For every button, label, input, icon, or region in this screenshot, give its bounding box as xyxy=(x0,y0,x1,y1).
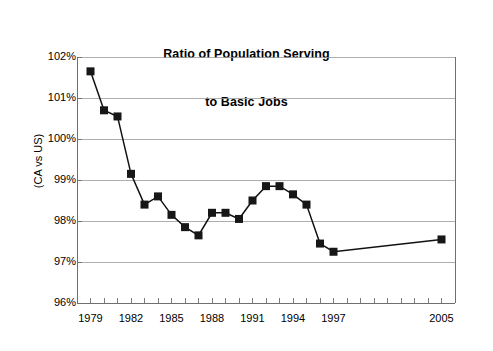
plot-area xyxy=(0,0,493,351)
data-point xyxy=(100,106,108,114)
data-point xyxy=(208,209,216,217)
data-point xyxy=(127,170,135,178)
chart-container: Ratio of Population Serving to Basic Job… xyxy=(0,0,493,351)
series-markers xyxy=(87,67,446,255)
data-point xyxy=(249,197,257,205)
series-line xyxy=(91,71,442,251)
data-point xyxy=(235,215,243,223)
data-point xyxy=(316,240,324,248)
data-point xyxy=(141,201,149,209)
data-point xyxy=(222,209,230,217)
data-point xyxy=(87,67,95,75)
data-point xyxy=(195,231,203,239)
data-point xyxy=(154,192,162,200)
data-point xyxy=(438,235,446,243)
data-point xyxy=(168,211,176,219)
data-point xyxy=(262,182,270,190)
data-point xyxy=(114,112,122,120)
data-point xyxy=(303,201,311,209)
data-point xyxy=(276,182,284,190)
data-point xyxy=(289,190,297,198)
data-point xyxy=(330,248,338,256)
data-point xyxy=(181,223,189,231)
